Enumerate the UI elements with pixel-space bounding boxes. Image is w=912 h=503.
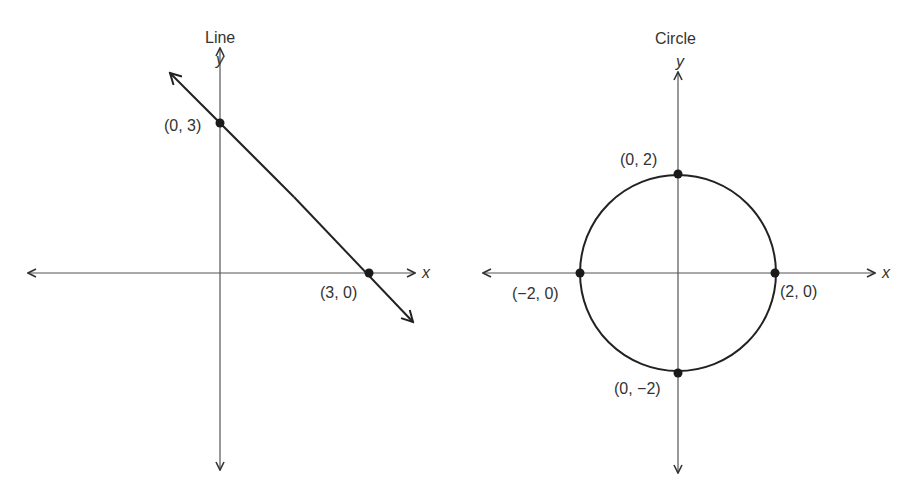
point-label-3-0: (3, 0) (320, 285, 357, 301)
diagram-canvas (0, 0, 912, 503)
point-label-0-2: (0, 2) (620, 152, 657, 168)
point-label-0-neg2: (0, −2) (614, 381, 661, 397)
line-graph (170, 73, 294, 197)
circle-panel (483, 72, 875, 473)
point-2-0 (771, 269, 780, 278)
point-label-0-3: (0, 3) (164, 118, 201, 134)
line-title: Line (205, 30, 235, 46)
line-x-axis-label: x (422, 265, 430, 281)
line-panel (28, 48, 415, 470)
point-3-0 (365, 269, 374, 278)
point-label-2-0: (2, 0) (780, 284, 817, 300)
point-neg2-0 (576, 269, 585, 278)
circle-y-axis-label: y (676, 54, 684, 70)
circle-x-axis-label: x (882, 265, 890, 281)
line-y-axis-label: y (216, 52, 224, 68)
circle-title: Circle (655, 31, 696, 47)
line-graph-lower (294, 197, 413, 322)
point-0-neg2 (674, 369, 683, 378)
point-0-3 (216, 119, 225, 128)
point-0-2 (674, 170, 683, 179)
point-label-neg2-0: (−2, 0) (512, 286, 559, 302)
